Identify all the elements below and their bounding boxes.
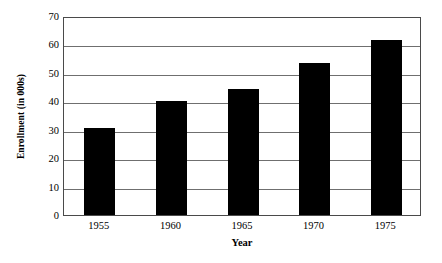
y-tick-label: 30	[31, 126, 59, 136]
x-tick-label: 1975	[375, 219, 396, 233]
bars-group	[64, 18, 420, 215]
x-axis-tick-labels: 19551960196519701975	[63, 219, 421, 235]
bar-chart: Enrollment (in 000s) 010203040506070 195…	[0, 0, 442, 263]
x-tick-label: 1960	[160, 219, 181, 233]
y-tick-label: 20	[31, 154, 59, 164]
bar	[228, 89, 259, 215]
y-tick-label: 50	[31, 69, 59, 79]
x-tick-label: 1965	[232, 219, 253, 233]
x-tick-label: 1955	[88, 219, 109, 233]
y-axis-title: Enrollment (in 000s)	[14, 17, 28, 216]
y-tick-label: 10	[31, 183, 59, 193]
y-tick-label: 0	[31, 211, 59, 221]
plot-area	[63, 17, 421, 216]
y-axis-tick-labels: 010203040506070	[28, 0, 59, 263]
bar	[156, 101, 187, 215]
bar	[299, 63, 330, 215]
y-tick-label: 70	[31, 12, 59, 22]
bar	[371, 40, 402, 215]
x-tick-label: 1970	[303, 219, 324, 233]
x-axis-title: Year	[63, 236, 421, 250]
y-tick-label: 40	[31, 97, 59, 107]
bar	[84, 128, 115, 215]
y-tick-label: 60	[31, 40, 59, 50]
